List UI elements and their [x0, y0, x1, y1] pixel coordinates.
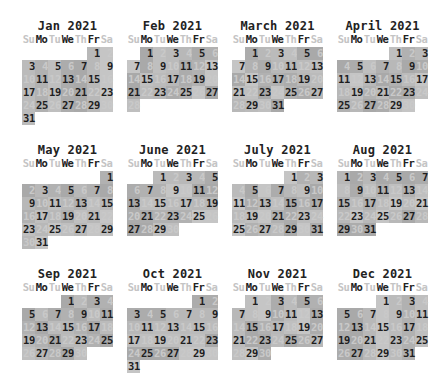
day-cell[interactable]: 3 — [310, 171, 323, 184]
day-cell[interactable]: 11 — [415, 308, 428, 321]
day-cell[interactable]: 12 — [389, 184, 402, 197]
day-cell[interactable]: 22 — [140, 86, 153, 99]
day-cell[interactable]: 8 — [100, 184, 113, 197]
day-cell[interactable]: 10 — [35, 197, 48, 210]
day-cell[interactable]: 11 — [35, 73, 48, 86]
day-cell[interactable]: 17 — [310, 197, 323, 210]
day-cell[interactable]: 16 — [74, 321, 87, 334]
day-cell[interactable]: 6 — [35, 308, 48, 321]
day-cell[interactable]: 16 — [258, 321, 271, 334]
day-cell[interactable]: 17 — [127, 334, 140, 347]
day-cell[interactable]: 4 — [179, 47, 192, 60]
day-cell[interactable]: 18 — [140, 334, 153, 347]
day-cell[interactable]: 26 — [205, 210, 218, 223]
day-cell[interactable]: 24 — [87, 334, 100, 347]
day-cell[interactable]: 27 — [74, 223, 87, 236]
day-cell[interactable]: 16 — [402, 73, 415, 86]
day-cell[interactable]: 7 — [232, 308, 245, 321]
day-cell[interactable]: 25 — [337, 99, 350, 112]
day-cell[interactable]: 14 — [48, 321, 61, 334]
day-cell[interactable]: 3 — [271, 47, 284, 60]
day-cell[interactable]: 23 — [297, 210, 310, 223]
day-cell[interactable]: 4 — [192, 171, 205, 184]
day-cell[interactable]: 8 — [61, 308, 74, 321]
day-cell[interactable]: 19 — [205, 197, 218, 210]
day-cell[interactable]: 4 — [284, 47, 297, 60]
day-cell[interactable]: 24 — [166, 86, 179, 99]
day-cell[interactable]: 30 — [166, 223, 179, 236]
day-cell[interactable]: 22 — [87, 86, 100, 99]
day-cell[interactable]: 12 — [61, 197, 74, 210]
day-cell[interactable]: 8 — [192, 308, 205, 321]
day-cell[interactable]: 21 — [376, 86, 389, 99]
day-cell[interactable]: 10 — [87, 308, 100, 321]
day-cell[interactable]: 5 — [389, 171, 402, 184]
day-cell[interactable]: 1 — [284, 171, 297, 184]
day-cell[interactable]: 15 — [337, 197, 350, 210]
day-cell[interactable]: 31 — [363, 223, 376, 236]
day-cell[interactable]: 11 — [284, 60, 297, 73]
day-cell[interactable]: 27 — [402, 210, 415, 223]
day-cell[interactable]: 29 — [192, 347, 205, 360]
day-cell[interactable]: 14 — [415, 184, 428, 197]
day-cell[interactable]: 26 — [48, 99, 61, 112]
day-cell[interactable]: 25 — [192, 210, 205, 223]
day-cell[interactable]: 3 — [127, 308, 140, 321]
day-cell[interactable]: 7 — [127, 60, 140, 73]
day-cell[interactable]: 14 — [87, 197, 100, 210]
day-cell[interactable]: 24 — [310, 210, 323, 223]
day-cell[interactable]: 19 — [350, 86, 363, 99]
day-cell[interactable]: 19 — [389, 197, 402, 210]
day-cell[interactable]: 30 — [402, 99, 415, 112]
day-cell[interactable]: 23 — [22, 223, 35, 236]
day-cell[interactable]: 22 — [61, 334, 74, 347]
day-cell[interactable]: 25 — [284, 86, 297, 99]
day-cell[interactable]: 20 — [35, 334, 48, 347]
day-cell[interactable]: 27 — [127, 223, 140, 236]
day-cell[interactable]: 31 — [35, 236, 48, 249]
day-cell[interactable]: 29 — [61, 347, 74, 360]
day-cell[interactable]: 15 — [153, 197, 166, 210]
day-cell[interactable]: 16 — [389, 321, 402, 334]
day-cell[interactable]: 25 — [284, 334, 297, 347]
day-cell[interactable]: 3 — [87, 295, 100, 308]
day-cell[interactable]: 22 — [284, 210, 297, 223]
day-cell[interactable]: 13 — [61, 73, 74, 86]
day-cell[interactable]: 12 — [48, 73, 61, 86]
day-cell[interactable]: 9 — [258, 60, 271, 73]
day-cell[interactable]: 6 — [310, 295, 323, 308]
day-cell[interactable]: 14 — [232, 321, 245, 334]
day-cell[interactable]: 30 — [74, 347, 87, 360]
day-cell[interactable]: 20 — [363, 86, 376, 99]
day-cell[interactable]: 1 — [389, 47, 402, 60]
day-cell[interactable]: 1 — [245, 295, 258, 308]
day-cell[interactable]: 23 — [350, 210, 363, 223]
day-cell[interactable]: 2 — [100, 47, 113, 60]
day-cell[interactable]: 4 — [48, 184, 61, 197]
day-cell[interactable]: 6 — [258, 184, 271, 197]
day-cell[interactable]: 4 — [35, 60, 48, 73]
day-cell[interactable]: 7 — [271, 184, 284, 197]
day-cell[interactable]: 20 — [310, 321, 323, 334]
day-cell[interactable]: 27 — [166, 347, 179, 360]
day-cell[interactable]: 13 — [310, 308, 323, 321]
day-cell[interactable]: 21 — [127, 86, 140, 99]
day-cell[interactable]: 28 — [232, 99, 245, 112]
day-cell[interactable]: 28 — [415, 210, 428, 223]
day-cell[interactable]: 18 — [35, 86, 48, 99]
day-cell[interactable]: 26 — [297, 86, 310, 99]
day-cell[interactable]: 30 — [100, 99, 113, 112]
day-cell[interactable]: 21 — [415, 197, 428, 210]
day-cell[interactable]: 26 — [22, 347, 35, 360]
day-cell[interactable]: 13 — [350, 321, 363, 334]
day-cell[interactable]: 24 — [35, 223, 48, 236]
day-cell[interactable]: 12 — [337, 321, 350, 334]
day-cell[interactable]: 10 — [402, 308, 415, 321]
day-cell[interactable]: 16 — [205, 321, 218, 334]
day-cell[interactable]: 21 — [48, 334, 61, 347]
day-cell[interactable]: 20 — [402, 197, 415, 210]
day-cell[interactable]: 10 — [179, 184, 192, 197]
day-cell[interactable]: 15 — [140, 73, 153, 86]
day-cell[interactable]: 17 — [271, 321, 284, 334]
day-cell[interactable]: 5 — [297, 47, 310, 60]
